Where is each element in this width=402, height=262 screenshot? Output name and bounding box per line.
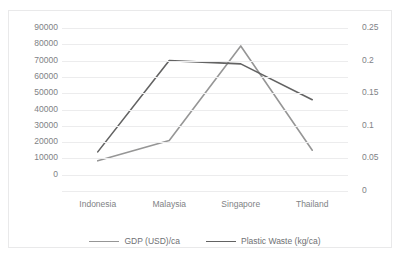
y-axis-left-tick: 0: [25, 170, 58, 179]
gridline: [62, 158, 348, 159]
series-line: [98, 46, 313, 161]
legend-line-icon: [89, 241, 119, 242]
legend-item[interactable]: Plastic Waste (kg/ca): [206, 236, 321, 246]
gridline: [62, 28, 348, 29]
gridline: [62, 77, 348, 78]
legend-label: Plastic Waste (kg/ca): [241, 236, 321, 246]
x-axis-tick-indonesia: Indonesia: [79, 199, 116, 209]
x-axis: IndonesiaMalaysiaSingaporeThailand: [62, 199, 348, 213]
x-axis-tick-thailand: Thailand: [296, 199, 329, 209]
gridline: [62, 142, 348, 143]
y-axis-right-tick: 0.2: [362, 56, 374, 65]
chart-container: 0100002000030000400005000060000700008000…: [8, 10, 392, 248]
gridline: [62, 44, 348, 45]
y-axis-right-tick: 0.1: [362, 121, 374, 130]
y-axis-left-tick: 50000: [25, 88, 58, 97]
plot-area: [62, 28, 348, 191]
gridline: [62, 175, 348, 176]
gridline: [62, 61, 348, 62]
series-line: [98, 61, 313, 152]
y-axis-left-tick: 60000: [25, 72, 58, 81]
y-axis-right-tick: 0.05: [362, 153, 379, 162]
y-axis-right: 00.050.10.150.20.25: [354, 28, 398, 191]
y-axis-left: 0100002000030000400005000060000700008000…: [17, 28, 58, 191]
x-axis-tick-singapore: Singapore: [221, 199, 260, 209]
gridline: [62, 126, 348, 127]
y-axis-left-tick: 80000: [25, 39, 58, 48]
y-axis-left-tick: 30000: [25, 121, 58, 130]
legend-line-icon: [206, 241, 236, 242]
chart-legend: GDP (USD)/caPlastic Waste (kg/ca): [62, 233, 348, 249]
gridline: [62, 110, 348, 111]
gridline: [62, 93, 348, 94]
legend-label: GDP (USD)/ca: [124, 236, 180, 246]
legend-item[interactable]: GDP (USD)/ca: [89, 236, 180, 246]
x-axis-tick-malaysia: Malaysia: [152, 199, 186, 209]
y-axis-right-tick: 0.25: [362, 23, 379, 32]
y-axis-left-tick: 70000: [25, 56, 58, 65]
y-axis-left-tick: 40000: [25, 105, 58, 114]
y-axis-left-tick: 90000: [25, 23, 58, 32]
y-axis-left-tick: 10000: [25, 153, 58, 162]
y-axis-left-tick: 20000: [25, 137, 58, 146]
y-axis-right-tick: 0: [362, 186, 367, 195]
y-axis-right-tick: 0.15: [362, 88, 379, 97]
gridline: [62, 191, 348, 192]
